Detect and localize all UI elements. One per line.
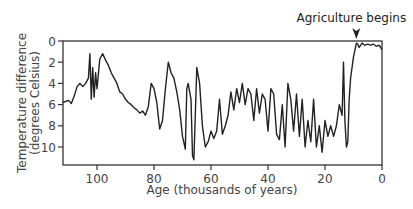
agriculture-annotation: Agriculture begins (297, 11, 407, 25)
y-tick-label: 10 (41, 141, 56, 155)
y-tick-label: 0 (48, 35, 56, 49)
y-tick-label: 2 (48, 56, 56, 70)
y-tick-label: 4 (48, 77, 56, 91)
arrowhead-down-icon (352, 28, 360, 39)
plot-frame (63, 41, 382, 165)
temperature-line (63, 43, 382, 160)
y-axis-title-line2: (degrees Celsius) (28, 51, 42, 155)
y-axis-ticks: 0246810 (41, 35, 63, 155)
x-tick-label: 0 (378, 172, 386, 186)
y-axis-title-line1: Temperature difference (15, 33, 29, 174)
temperature-chart: 100806040200 0246810 Age (thousands of y… (0, 0, 413, 209)
y-tick-label: 6 (48, 98, 56, 112)
x-axis-title: Age (thousands of years) (147, 183, 298, 197)
y-tick-label: 8 (48, 119, 56, 133)
x-tick-label: 100 (86, 172, 109, 186)
x-tick-label: 20 (317, 172, 332, 186)
